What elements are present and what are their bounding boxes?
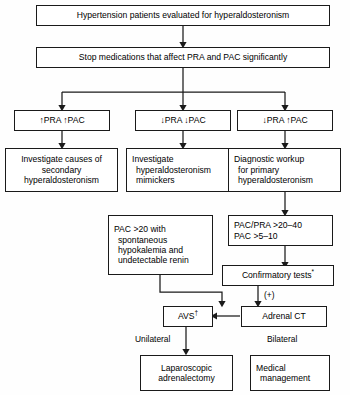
node-medical-management: Medical management	[250, 355, 330, 391]
edge-label-bilateral: Bilateral	[267, 335, 297, 344]
node-stop-medications: Stop medications that affect PRA and PAC…	[36, 47, 330, 68]
edge-label-positive: (+)	[264, 291, 274, 300]
node-pac-criteria: PAC >20 with spontaneous hypokalemia and…	[108, 215, 213, 275]
node-branch-low-pra-low-pac: ↓PRA ↓PAC	[135, 110, 231, 131]
node-laparoscopic-adrenalectomy: Laparoscopic adrenalectomy	[140, 355, 233, 391]
node-start: Hypertension patients evaluated for hype…	[36, 5, 330, 26]
edge-label-unilateral: Unilateral	[135, 335, 170, 344]
footnote-marker-asterisk: *	[312, 268, 315, 275]
edge-paccriteria-to-adrenalct	[160, 275, 222, 304]
node-investigate-mimickers: Investigate hyperaldosteronism mimickers	[126, 148, 239, 192]
node-investigate-secondary: Investigate causes of secondary hyperald…	[5, 148, 118, 192]
flowchart-diagram: Hypertension patients evaluated for hype…	[0, 0, 350, 395]
node-avs: AVS†	[163, 306, 213, 327]
node-branch-high-pra-high-pac: ↑PRA ↑PAC	[14, 110, 110, 131]
node-diagnostic-workup-primary: Diagnostic workup for primary hyperaldos…	[228, 148, 341, 192]
node-branch-low-pra-high-pac: ↓PRA ↑PAC	[237, 110, 333, 131]
node-confirmatory-tests: Confirmatory tests*	[222, 265, 334, 286]
node-adrenal-ct: Adrenal CT	[241, 306, 327, 327]
footnote-marker-dagger: †	[195, 309, 199, 316]
node-ratio-criteria: PAC/PRA >20–40 PAC >5–10	[228, 215, 333, 246]
